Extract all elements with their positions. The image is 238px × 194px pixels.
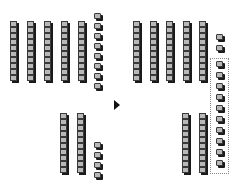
one-cube bbox=[216, 160, 223, 166]
unit-cube bbox=[10, 75, 17, 81]
one-cube bbox=[216, 105, 223, 111]
one-cube bbox=[94, 63, 101, 69]
one-cube bbox=[216, 45, 223, 51]
one-cube bbox=[94, 73, 101, 79]
unit-cube bbox=[183, 75, 190, 81]
one-cube bbox=[94, 162, 101, 168]
one-cube bbox=[94, 83, 101, 89]
ten-rod bbox=[77, 113, 84, 173]
one-cube bbox=[94, 13, 101, 19]
one-cube bbox=[94, 43, 101, 49]
one-cube bbox=[216, 138, 223, 144]
one-cube bbox=[94, 33, 101, 39]
right-arrow-icon bbox=[114, 100, 120, 110]
one-cube bbox=[216, 34, 223, 40]
ten-rod bbox=[199, 21, 206, 81]
unit-cube bbox=[150, 75, 157, 81]
ten-rod bbox=[166, 21, 173, 81]
ten-rod bbox=[61, 21, 68, 81]
unit-cube bbox=[77, 167, 84, 173]
one-cube bbox=[94, 23, 101, 29]
one-cube bbox=[216, 116, 223, 122]
ten-rod bbox=[10, 21, 17, 81]
ten-rod bbox=[199, 113, 206, 173]
unit-cube bbox=[78, 75, 85, 81]
unit-cube bbox=[166, 75, 173, 81]
one-cube bbox=[94, 53, 101, 59]
unit-cube bbox=[60, 167, 67, 173]
one-cube bbox=[94, 172, 101, 178]
one-cube bbox=[216, 61, 223, 67]
ten-rod bbox=[27, 21, 34, 81]
one-cube bbox=[94, 152, 101, 158]
one-cube bbox=[216, 149, 223, 155]
one-cube bbox=[216, 72, 223, 78]
unit-cube bbox=[27, 75, 34, 81]
one-cube bbox=[216, 83, 223, 89]
ten-rod bbox=[183, 21, 190, 81]
unit-cube bbox=[199, 75, 206, 81]
one-cube bbox=[94, 142, 101, 148]
unit-cube bbox=[199, 167, 206, 173]
ten-rod bbox=[78, 21, 85, 81]
unit-cube bbox=[133, 75, 140, 81]
one-cube bbox=[216, 94, 223, 100]
unit-cube bbox=[182, 167, 189, 173]
unit-cube bbox=[61, 75, 68, 81]
ten-rod bbox=[182, 113, 189, 173]
ten-rod bbox=[150, 21, 157, 81]
unit-cube bbox=[44, 75, 51, 81]
ten-rod bbox=[44, 21, 51, 81]
ten-rod bbox=[60, 113, 67, 173]
ten-rod bbox=[133, 21, 140, 81]
one-cube bbox=[216, 127, 223, 133]
